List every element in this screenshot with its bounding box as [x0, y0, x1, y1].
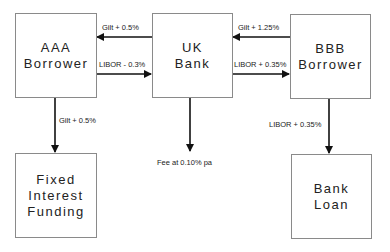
node-label: Borrower: [24, 56, 89, 72]
node-label: UK: [182, 40, 203, 56]
node-label: AAA: [41, 40, 72, 56]
edge-label-aaa-to-fixed: Gilt + 0.5%: [59, 116, 96, 125]
edge-label-bbb-to-loan: LIBOR + 0.35%: [269, 120, 321, 129]
node-label: Fixed: [36, 172, 75, 188]
edge-label-bank-fee: Fee at 0.10% pa: [157, 158, 212, 167]
fixed-interest-funding-node: Fixed Interest Funding: [15, 153, 97, 238]
node-label: Interest: [28, 188, 83, 204]
node-label: Funding: [27, 204, 84, 220]
node-label: Borrower: [298, 57, 363, 73]
uk-bank-node: UK Bank: [152, 13, 233, 98]
node-label: BBB: [315, 41, 346, 57]
edge-label-aaa-to-bank: LIBOR - 0.3%: [99, 60, 145, 69]
edge-label-bbb-to-bank: Gilt + 1.25%: [238, 23, 279, 32]
node-label: Bank: [314, 181, 350, 197]
aaa-borrower-node: AAA Borrower: [15, 13, 97, 98]
node-label: Bank: [175, 56, 211, 72]
node-label: Loan: [314, 197, 349, 213]
edge-label-bank-to-bbb: LIBOR + 0.35%: [234, 60, 286, 69]
bbb-borrower-node: BBB Borrower: [290, 14, 371, 99]
bank-loan-node: Bank Loan: [291, 154, 372, 239]
edge-label-bank-to-aaa: Gilt + 0.5%: [102, 23, 139, 32]
